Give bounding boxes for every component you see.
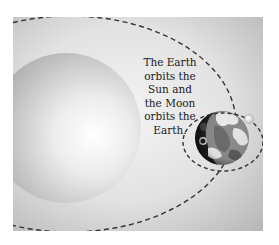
moon-icon [245, 115, 254, 124]
orbit-diagram: The Earth orbits the Sun and the Moon or… [0, 0, 279, 245]
earth-icon [195, 111, 249, 165]
diagram-caption: The Earth orbits the Sun and the Moon or… [140, 56, 200, 137]
